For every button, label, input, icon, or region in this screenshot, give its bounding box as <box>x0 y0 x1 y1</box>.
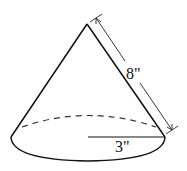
base-front-edge <box>11 137 165 161</box>
cone-diagram: 8" 3" <box>0 0 187 171</box>
slant-dimension-line-upper <box>96 18 125 61</box>
base-back-edge-dashed <box>22 116 156 128</box>
slant-height-label: 8" <box>126 65 141 82</box>
radius-label: 3" <box>115 138 130 155</box>
